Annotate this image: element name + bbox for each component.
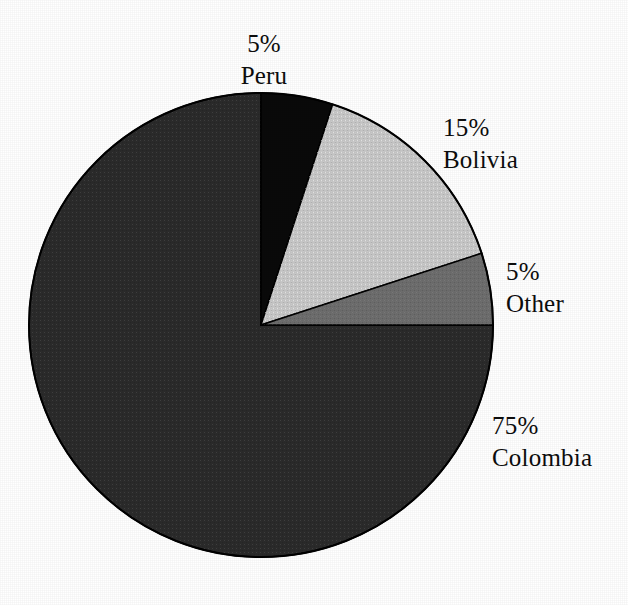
pie-slices xyxy=(29,93,493,557)
slice-label-bolivia: 15% Bolivia xyxy=(443,112,518,176)
slice-percent-colombia: 75% xyxy=(492,410,592,442)
slice-label-other: 5% Other xyxy=(506,256,564,320)
slice-name-colombia: Colombia xyxy=(492,442,592,474)
slice-name-bolivia: Bolivia xyxy=(443,144,518,176)
pie-chart-figure: 5% Peru 15% Bolivia 5% Other 75% Colombi… xyxy=(0,0,628,605)
slice-label-colombia: 75% Colombia xyxy=(492,410,592,474)
slice-percent-bolivia: 15% xyxy=(443,112,518,144)
slice-name-peru: Peru xyxy=(241,60,288,92)
slice-name-other: Other xyxy=(506,288,564,320)
slice-percent-peru: 5% xyxy=(241,28,288,60)
slice-percent-other: 5% xyxy=(506,256,564,288)
slice-label-peru: 5% Peru xyxy=(241,28,288,92)
